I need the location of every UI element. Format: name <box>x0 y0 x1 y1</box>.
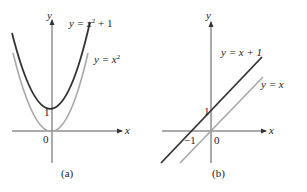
tick-x-neg1-label-b: −1 <box>184 134 196 146</box>
y-axis-label-a: y <box>46 9 52 21</box>
x-axis-label-a: x <box>124 124 130 136</box>
equation-label-lower-line: y = x <box>260 78 284 90</box>
curve-y-eq-x-squared-plus-1 <box>12 22 90 109</box>
equation-label-upper-parabola: y = x2 + 1 <box>68 17 112 29</box>
y-axis-label-b: y <box>205 9 211 21</box>
line-y-eq-x-plus-1 <box>161 57 262 163</box>
x-axis-label-b: x <box>268 124 274 136</box>
line-y-eq-x <box>180 77 263 163</box>
origin-label-a: 0 <box>43 133 49 145</box>
caption-b: (b) <box>212 167 225 180</box>
equation-label-lower-parabola: y = x2 <box>93 53 121 65</box>
panel-b: y x 0 1 −1 y = x + 1 y = x (b) <box>161 9 284 180</box>
tick-y1-label-a: 1 <box>44 106 50 118</box>
panel-a: y x 0 1 y = x2 + 1 y = x2 (a) <box>12 9 130 180</box>
curve-y-eq-x-squared <box>13 53 88 132</box>
caption-a: (a) <box>61 167 74 180</box>
origin-label-b: 0 <box>214 134 220 146</box>
equation-label-upper-line: y = x + 1 <box>220 46 262 58</box>
tick-y1-label-b: 1 <box>204 105 210 117</box>
figure-canvas: y x 0 1 y = x2 + 1 y = x2 (a) y x 0 1 −1… <box>0 0 307 192</box>
